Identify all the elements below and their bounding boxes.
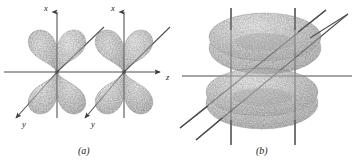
- diagonal-axis-b-lower: [196, 118, 222, 140]
- panel-b: (b): [180, 8, 352, 157]
- torus-upper: [209, 13, 321, 74]
- caption-fragment: [0, 158, 355, 165]
- orbital-right: [85, 12, 170, 118]
- axis-label-z: z: [165, 72, 170, 82]
- orbital-figure: x z y x y (a): [0, 0, 355, 165]
- axis-label-y-right: y: [90, 119, 95, 129]
- orbital-left: [16, 12, 104, 118]
- axis-label-y-left: y: [21, 119, 26, 129]
- figure-canvas: x z y x y (a): [0, 0, 355, 165]
- panel-label-b: (b): [256, 145, 268, 157]
- diagonal-axis-2-b-lower: [180, 106, 208, 128]
- axis-label-x-right: x: [110, 3, 115, 13]
- torus-lower: [206, 68, 318, 129]
- axis-label-x-left: x: [43, 3, 48, 13]
- panel-a: x z y x y (a): [4, 3, 170, 157]
- panel-label-a: (a): [78, 145, 90, 157]
